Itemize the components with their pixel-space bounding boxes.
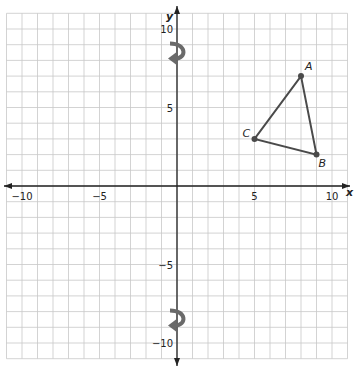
- coordinate-plane: xy−10−5510105−5−10ABC: [0, 0, 355, 370]
- rotation-arrow-icon: [168, 44, 183, 65]
- x-tick-label: −10: [11, 191, 32, 202]
- y-tick-label: 5: [167, 103, 173, 114]
- x-axis-label: x: [345, 186, 354, 199]
- x-tick-label: −5: [92, 191, 107, 202]
- y-arrow-up-icon: [174, 6, 180, 14]
- y-tick-label: −10: [152, 338, 173, 349]
- point-label: A: [304, 60, 313, 73]
- point-c: [252, 136, 258, 142]
- y-arrow-down-icon: [174, 358, 180, 366]
- point-label: C: [243, 127, 251, 140]
- x-arrow-left-icon: [4, 183, 12, 189]
- x-tick-label: 5: [251, 191, 257, 202]
- rotation-arrow-icon: [168, 310, 183, 331]
- y-tick-label: 10: [160, 24, 173, 35]
- point-a: [298, 73, 304, 79]
- point-label: B: [319, 157, 327, 170]
- y-tick-label: −5: [158, 260, 173, 271]
- y-axis-label: y: [166, 10, 174, 23]
- x-tick-label: 10: [326, 191, 339, 202]
